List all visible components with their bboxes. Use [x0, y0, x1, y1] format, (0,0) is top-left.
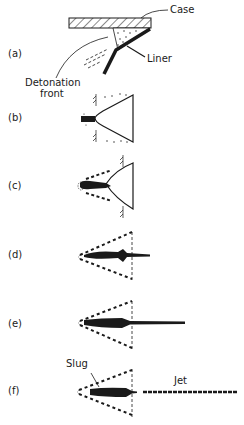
detonation-front-dashes — [84, 49, 108, 68]
detonation-front-label-line1: Detonation — [25, 77, 81, 88]
detonation-leader — [56, 37, 108, 78]
collapsed-tip — [81, 116, 95, 122]
detonation-front-label-line2: front — [40, 88, 64, 99]
stage-a-drawing — [56, 10, 168, 78]
diagram-canvas — [0, 0, 244, 425]
stage-label-b: (b) — [8, 112, 22, 123]
stage-d-drawing — [79, 232, 151, 280]
case-label: Case — [170, 4, 194, 15]
stage-b-drawing — [81, 93, 133, 142]
slug-label: Slug — [66, 358, 88, 369]
stage-label-c: (c) — [8, 180, 21, 191]
liner-leader — [127, 46, 145, 57]
stage-c-drawing — [78, 155, 133, 218]
jet-and-slug — [84, 318, 185, 328]
stage-label-f: (f) — [8, 385, 19, 396]
stage-label-e: (e) — [8, 318, 22, 329]
case-leader — [141, 10, 168, 18]
case-wall — [69, 18, 151, 28]
liner-label: Liner — [147, 53, 172, 64]
jet-label: Jet — [174, 375, 187, 386]
stage-f-drawing — [78, 369, 239, 417]
collapsing-jet — [80, 181, 111, 190]
stage-label-d: (d) — [8, 249, 22, 260]
slug — [90, 388, 137, 397]
liner-cone — [95, 95, 133, 142]
jet-and-slug — [84, 249, 150, 262]
stage-e-drawing — [79, 301, 186, 349]
stage-label-a: (a) — [8, 48, 22, 59]
